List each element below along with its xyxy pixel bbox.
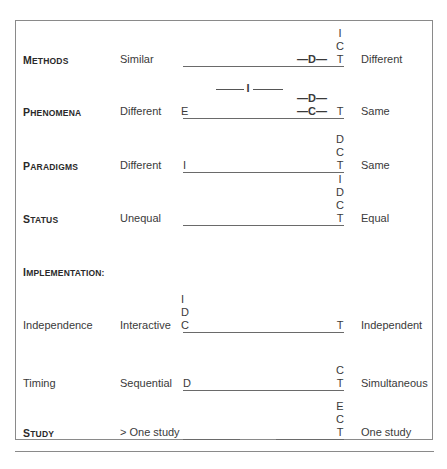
row-label-paradigms: PARADIGMS <box>23 160 78 174</box>
marker-c-timing: C <box>335 364 345 377</box>
marker-c-study: C <box>335 413 345 426</box>
row-right-pole-methods: Different <box>361 53 402 66</box>
row-left-pole-phenomena: Different <box>120 105 161 118</box>
marker-t-phenomena: T <box>335 105 345 118</box>
scale-line-status <box>183 225 344 226</box>
row-label-independence: Independence <box>23 319 93 332</box>
row-left-pole-status: Unequal <box>120 212 161 225</box>
marker-d-timing: D <box>183 377 193 390</box>
marker-c-status: C <box>335 199 345 212</box>
marker-c-phenomena: —C— <box>297 105 327 118</box>
range-left-phenomena <box>216 89 244 90</box>
row-label-status: STATUS <box>23 213 58 227</box>
section-heading-implementation: IMPLEMENTATION: <box>23 266 105 280</box>
row-right-pole-status: Equal <box>361 212 389 225</box>
marker-d-methods: —D— <box>297 53 327 66</box>
row-label-timing: Timing <box>23 377 56 390</box>
bottom-separator <box>15 451 434 452</box>
marker-d-phenomena: —D— <box>297 92 327 105</box>
marker-e-phenomena: E <box>181 105 191 118</box>
row-right-pole-study: One study <box>361 426 411 439</box>
scale-line-study-right <box>276 439 344 440</box>
scale-line-phenomena <box>183 118 344 119</box>
marker-c-methods: C <box>335 40 345 53</box>
marker-i-paradigms: I <box>183 159 193 172</box>
marker-t-status: T <box>335 212 345 225</box>
label-rest: ARADIGMS <box>30 162 78 172</box>
row-left-pole-paradigms: Different <box>120 159 161 172</box>
label-rest: TUDY <box>30 429 54 439</box>
label-initial: M <box>23 54 32 66</box>
scale-line-independence <box>183 332 344 333</box>
row-right-pole-paradigms: Same <box>361 159 390 172</box>
scale-line-paradigms <box>183 172 344 173</box>
marker-t-timing: T <box>335 377 345 390</box>
row-label-phenomena: PHENOMENA <box>23 106 81 120</box>
label-rest: TATUS <box>30 215 58 225</box>
marker-c-paradigms: C <box>335 146 345 159</box>
marker-c-independence: C <box>181 319 191 332</box>
row-right-pole-independence: Independent <box>361 319 422 332</box>
row-left-pole-methods: Similar <box>120 53 154 66</box>
row-left-pole-study: > One study <box>120 426 180 439</box>
marker-d-paradigms: D <box>335 133 345 146</box>
row-label-study: STUDY <box>23 427 54 441</box>
label-rest: HENOMENA <box>30 108 81 118</box>
row-label-methods: METHODS <box>23 54 69 68</box>
row-left-pole-independence: Interactive <box>120 319 171 332</box>
marker-i-methods: I <box>335 27 345 40</box>
marker-t-independence: T <box>335 319 345 332</box>
scale-line-study-left <box>183 439 240 440</box>
label-rest: ETHODS <box>32 56 69 66</box>
marker-t-study: T <box>335 426 345 439</box>
marker-e-study: E <box>335 400 345 413</box>
scale-line-timing <box>183 390 344 391</box>
marker-i-phenomena: I <box>244 82 252 95</box>
marker-t-methods: T <box>335 53 345 66</box>
marker-d-independence: D <box>181 306 191 319</box>
marker-t-paradigms: T <box>335 159 345 172</box>
row-left-pole-timing: Sequential <box>120 377 172 390</box>
row-right-pole-phenomena: Same <box>361 105 390 118</box>
scale-line-methods <box>183 66 344 67</box>
heading-rest: MPLEMENTATION: <box>26 268 105 278</box>
range-right-phenomena <box>253 89 283 90</box>
marker-i-independence: I <box>181 293 191 306</box>
marker-d-status: D <box>335 186 345 199</box>
marker-i-status: I <box>335 173 345 186</box>
row-right-pole-timing: Simultaneous <box>361 377 428 390</box>
